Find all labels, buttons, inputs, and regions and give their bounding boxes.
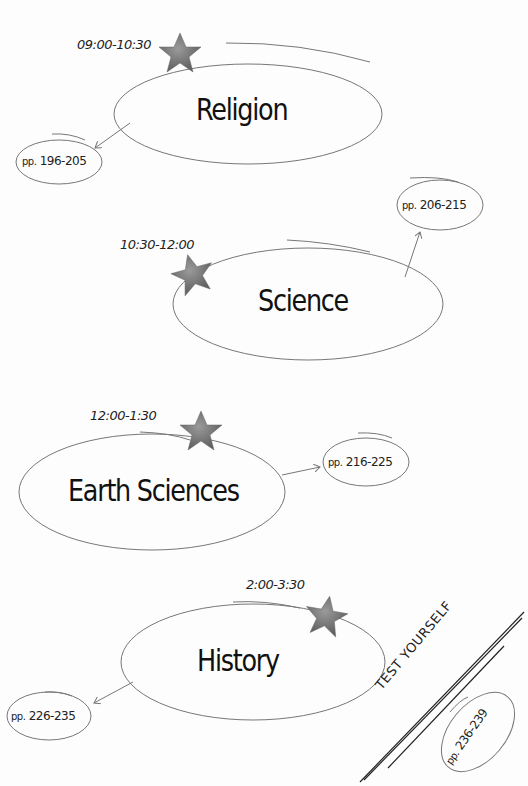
religion-title: Religion — [196, 92, 287, 127]
pages-prefix: pp. — [22, 156, 36, 167]
pages-range: 206-215 — [420, 198, 467, 212]
star-icon — [180, 411, 222, 450]
religion-time: 09:00-10:30 — [77, 37, 151, 52]
earth-sciences-pages: pp. 216-225 — [328, 455, 392, 469]
science-time: 10:30-12:00 — [120, 237, 194, 252]
history-pages: pp. 226-235 — [11, 709, 75, 723]
pages-range: 196-205 — [40, 154, 87, 168]
earth-sciences-title: Earth Sciences — [68, 473, 239, 508]
science-pages: pp. 206-215 — [402, 198, 466, 212]
religion-pages: pp. 196-205 — [22, 154, 86, 168]
star-icon — [167, 249, 218, 298]
science-title: Science — [258, 283, 348, 318]
earth-sciences-time: 12:00-1:30 — [90, 408, 156, 423]
history-title: History — [197, 643, 279, 678]
history-time: 2:00-3:30 — [246, 577, 305, 592]
star-icon — [302, 593, 350, 639]
star-icon — [159, 33, 201, 72]
pages-range: 216-225 — [346, 455, 393, 469]
pages-range: 226-235 — [29, 709, 76, 723]
pages-prefix: pp. — [11, 711, 25, 722]
pages-prefix: pp. — [402, 200, 416, 211]
pages-prefix: pp. — [328, 457, 342, 468]
